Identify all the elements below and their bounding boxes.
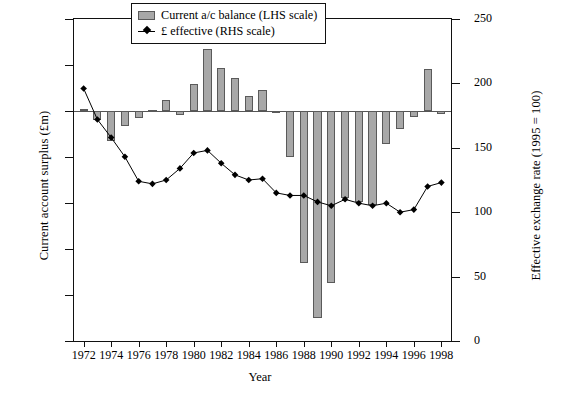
line-marker-1994 [383, 200, 390, 207]
x-tick [414, 341, 415, 347]
line-series [74, 19, 453, 343]
y-tick-left [65, 341, 74, 342]
line-marker-1972 [80, 85, 87, 92]
x-tick [194, 341, 195, 347]
line-marker-1996 [411, 206, 418, 213]
y-axis-left-title: Current account surplus (£m) [37, 46, 52, 326]
y-tick-left [65, 249, 74, 250]
line-marker-1987 [287, 192, 294, 199]
line-marker-1984 [245, 177, 252, 184]
x-tick [166, 341, 167, 347]
plot-area [73, 18, 452, 342]
chart-figure: Current account surplus (£m) Effective e… [0, 0, 574, 393]
y-tick-right [451, 19, 460, 20]
y-tick-left [65, 203, 74, 204]
plot-inner [74, 19, 451, 341]
x-tick [276, 341, 277, 347]
x-tick [84, 341, 85, 347]
legend-line-diamond-icon [138, 27, 155, 36]
legend-label-line: £ effective (RHS scale) [161, 24, 275, 40]
x-tick [386, 341, 387, 347]
y-tick-label-right: 250 [474, 11, 534, 26]
y-tick-right [451, 83, 460, 84]
line-path [84, 89, 442, 213]
legend-label-bar: Current a/c balance (LHS scale) [161, 8, 317, 24]
y-tick-label-right: 50 [474, 269, 534, 284]
line-marker-1990 [328, 202, 335, 209]
y-tick-left [65, 19, 74, 20]
line-marker-1998 [438, 179, 445, 186]
x-axis-title: Year [0, 370, 520, 385]
y-tick-right [451, 212, 460, 213]
y-tick-left [65, 111, 74, 112]
line-marker-1988 [300, 192, 307, 199]
x-tick [441, 341, 442, 347]
line-marker-1975 [122, 154, 129, 161]
x-tick [331, 341, 332, 347]
legend-item-bar: Current a/c balance (LHS scale) [138, 8, 317, 24]
x-tick [111, 341, 112, 347]
y-tick-label-right: 200 [474, 75, 534, 90]
line-marker-1976 [135, 178, 142, 185]
x-tick [249, 341, 250, 347]
y-tick-label-right: 0 [474, 333, 534, 348]
x-tick [304, 341, 305, 347]
line-marker-1989 [314, 199, 321, 206]
y-tick-right [451, 277, 460, 278]
line-marker-1997 [424, 183, 431, 190]
y-tick-label-right: 150 [474, 140, 534, 155]
legend-bar-swatch-icon [138, 11, 155, 20]
x-tick [359, 341, 360, 347]
chart-legend: Current a/c balance (LHS scale) £ effect… [131, 3, 326, 44]
x-tick [139, 341, 140, 347]
y-tick-right [451, 148, 460, 149]
legend-item-line: £ effective (RHS scale) [138, 24, 317, 40]
x-tick-label: 1998 [411, 348, 471, 363]
x-tick [221, 341, 222, 347]
line-marker-1991 [342, 196, 349, 203]
y-tick-label-right: 100 [474, 204, 534, 219]
line-marker-1992 [356, 200, 363, 207]
line-marker-1977 [149, 181, 156, 188]
line-marker-1993 [369, 202, 376, 209]
y-tick-left [65, 295, 74, 296]
y-tick-left [65, 65, 74, 66]
line-marker-1995 [397, 209, 404, 216]
y-tick-left [65, 157, 74, 158]
y-tick-right [451, 341, 460, 342]
